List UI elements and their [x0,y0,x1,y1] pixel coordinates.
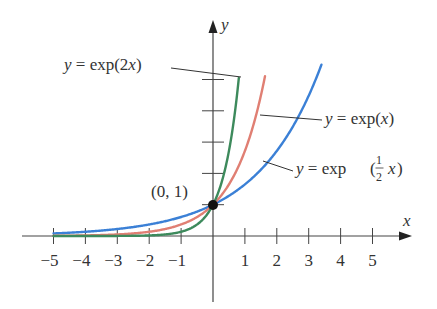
expx-label: y = exp(x) [323,109,394,128]
y-axis [209,20,218,302]
x-axis-arrow-icon [399,232,412,241]
x-tick-label: 3 [304,251,313,270]
exp2x-leader-line [171,68,241,77]
svg-text:x: x [387,159,396,178]
curve-exp-2x- [54,78,239,236]
plot-area: x y −5−4−3−2−112345 (0, 1) y = exp(2x) y… [0,0,437,309]
point-0-1-label: (0, 1) [151,182,188,201]
x-tick-label: 2 [273,251,282,270]
curves [54,65,322,236]
x-tick-label: 4 [336,251,345,270]
expx-leader-line [260,115,322,120]
svg-text:y = exp: y = exp [294,159,346,178]
svg-text:2: 2 [376,170,382,184]
x-tick-label: −4 [72,251,91,270]
x-tick-label: −5 [40,251,58,270]
exphalf-label: y = exp ( 1 2 x ) [294,153,403,184]
point-0-1-marker [208,200,218,210]
x-tick-labels: −5−4−3−2−112345 [40,251,376,270]
curve-exp-x-2- [54,65,322,234]
x-tick-label: −3 [104,251,122,270]
x-tick-label: −1 [168,251,186,270]
exponential-functions-chart: x y −5−4−3−2−112345 (0, 1) y = exp(2x) y… [0,0,437,309]
exp2x-label: y = exp(2x) [62,55,142,74]
curve-exp-x- [54,76,266,236]
y-axis-label: y [219,15,229,34]
y-axis-arrow-icon [209,20,218,33]
x-tick-label: −2 [136,251,154,270]
svg-text:1: 1 [376,153,382,167]
x-tick-label: 5 [368,251,377,270]
x-axis-label: x [402,211,411,230]
exphalf-leader-line [263,161,293,171]
x-tick-label: 1 [241,251,250,270]
svg-text:): ) [397,159,403,178]
